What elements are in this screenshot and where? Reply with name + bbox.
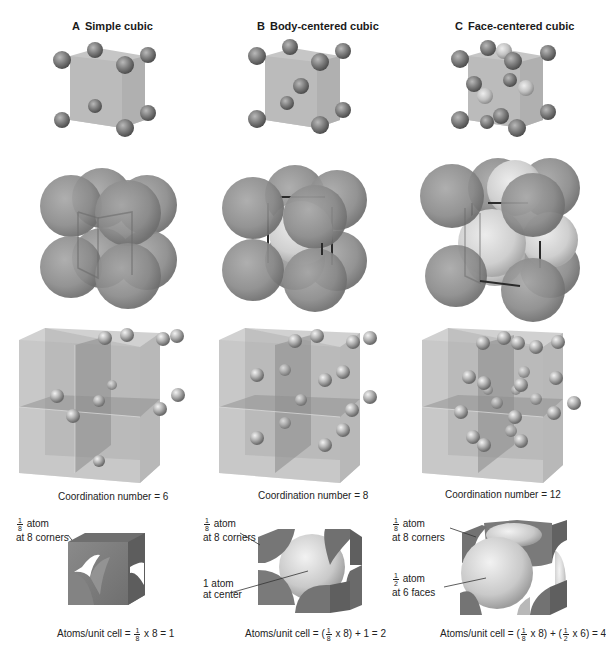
fraction-numerator: 1 (563, 627, 569, 635)
formula-text: Atoms/unit cell = ( (245, 628, 325, 639)
simple-cubic-lattice-diagram (50, 40, 160, 140)
callout-corner-atom-body-centered-cubic: 18 atom at 8 corners (203, 517, 256, 543)
fraction-denominator: 8 (393, 525, 399, 532)
atoms-per-cell-body-centered-cubic: Atoms/unit cell = (18 x 8) + 1 = 2 (245, 627, 386, 642)
panel-letter: B (257, 20, 265, 32)
fraction: 18 (17, 517, 23, 532)
fraction-denominator: 2 (393, 580, 399, 587)
fraction-denominator: 8 (326, 635, 332, 642)
panel-letter: A (72, 20, 80, 32)
callout-center-atom-body-centered-cubic: 1 atom at center (203, 578, 242, 600)
atoms-per-cell-simple-cubic: Atoms/unit cell = 18 x 8 = 1 (57, 627, 174, 642)
formula-text: Atoms/unit cell = (57, 628, 133, 639)
panel-title-text: Simple cubic (85, 20, 153, 32)
body-centered-cubic-space-filling-model (225, 155, 375, 315)
body-centered-cubic-lattice-diagram (245, 40, 355, 140)
panel-title-text: Face-centered cubic (468, 20, 574, 32)
formula-text: x 8) + ( (528, 628, 562, 639)
coordination-caption-face-centered-cubic: Coordination number = 12 (445, 489, 561, 500)
callout-text: atom (211, 518, 236, 529)
fraction: 18 (521, 627, 527, 642)
formula-text: x 6) = 4 (570, 628, 606, 639)
fraction-denominator: 8 (17, 525, 23, 532)
callout-text: at center (203, 589, 242, 600)
fraction-denominator: 8 (521, 635, 527, 642)
atoms-per-cell-face-centered-cubic: Atoms/unit cell = (18 x 8) + (12 x 6) = … (440, 627, 606, 642)
coordination-caption-body-centered-cubic: Coordination number = 8 (258, 490, 368, 501)
callout-text: 1 atom (203, 578, 234, 589)
callout-text: atom (400, 573, 425, 584)
formula-text: x 8) + 1 = 2 (333, 628, 386, 639)
coordination-caption-simple-cubic: Coordination number = 6 (58, 491, 168, 502)
callout-text: atom (400, 518, 425, 529)
simple-cubic-space-filling-model (40, 160, 190, 310)
fraction: 18 (393, 517, 399, 532)
fraction-denominator: 8 (204, 525, 210, 532)
fraction: 18 (326, 627, 332, 642)
title-body-centered-cubic: BBody-centered cubic (257, 20, 379, 32)
simple-cubic-coordination-model (15, 325, 190, 495)
panel-letter: C (455, 20, 463, 32)
face-centered-cubic-unit-cell-cutaway (452, 515, 572, 625)
simple-cubic-unit-cell-cutaway (30, 525, 150, 610)
fraction: 18 (204, 517, 210, 532)
fraction-numerator: 1 (17, 517, 23, 525)
face-centered-cubic-coordination-model (418, 325, 598, 495)
fraction-denominator: 2 (563, 635, 569, 642)
callout-face-atom-face-centered-cubic: 12 atom at 6 faces (392, 572, 435, 598)
panel-title-text: Body-centered cubic (270, 20, 379, 32)
callout-corner-atom-face-centered-cubic: 18 atom at 8 corners (392, 517, 445, 543)
fraction-numerator: 1 (326, 627, 332, 635)
callout-text: at 6 faces (392, 587, 435, 598)
body-centered-cubic-unit-cell-cutaway (250, 525, 370, 620)
fraction-denominator: 8 (134, 635, 140, 642)
fraction-numerator: 1 (393, 517, 399, 525)
face-centered-cubic-space-filling-model (420, 148, 600, 328)
callout-text: at 8 corners (392, 532, 445, 543)
fraction-numerator: 1 (134, 627, 140, 635)
fraction-numerator: 1 (204, 517, 210, 525)
face-centered-cubic-lattice-diagram (448, 40, 558, 140)
title-simple-cubic: ASimple cubic (72, 20, 153, 32)
fraction: 12 (563, 627, 569, 642)
body-centered-cubic-coordination-model (215, 325, 390, 495)
title-face-centered-cubic: CFace-centered cubic (455, 20, 574, 32)
formula-text: Atoms/unit cell = ( (440, 628, 520, 639)
fraction-numerator: 1 (521, 627, 527, 635)
fraction-numerator: 1 (393, 572, 399, 580)
formula-text: x 8 = 1 (141, 628, 174, 639)
fraction: 18 (134, 627, 140, 642)
fraction: 12 (393, 572, 399, 587)
